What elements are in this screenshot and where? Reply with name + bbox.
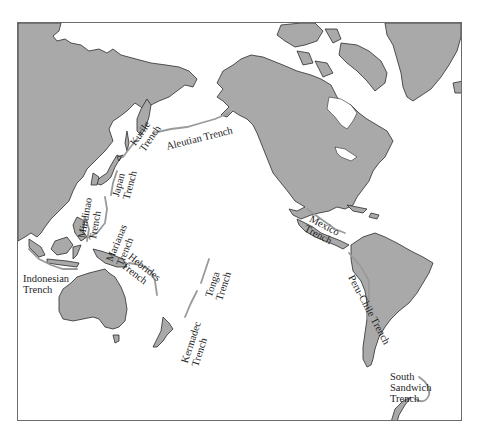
trench-line-kermadec [185,291,197,317]
landmass-tasmania [113,335,119,343]
label-south-sandwich-trench: SouthSandwichTrench [390,371,431,404]
landmass-borneo [51,237,73,255]
landmass-caribbean [347,205,379,219]
map-frame: Aleutian Trench KurileTrench JapanTrench… [17,22,462,421]
landmass-new-zealand [153,317,173,347]
label-indonesian-trench: IndonesianTrench [23,273,69,295]
landmass-greenland [385,23,461,101]
south-sandwich-label-line2: Sandwich [390,382,431,393]
south-sandwich-label-line1: South [390,371,431,382]
indonesian-label-line2: Trench [23,284,69,295]
indonesian-label-line1: Indonesian [23,273,69,284]
landmass-sumatra [29,239,45,257]
landmass-australia [59,269,127,329]
landmass-iceland [453,81,462,93]
landmass-korea [91,173,99,185]
south-sandwich-label-line3: Trench [390,393,431,404]
landmass-sulawesi [73,245,81,259]
